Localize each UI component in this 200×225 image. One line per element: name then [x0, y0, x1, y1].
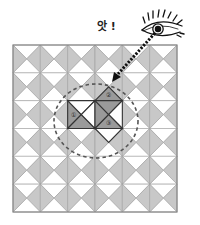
tile	[40, 129, 67, 157]
triangle-label-1: ①	[71, 111, 76, 118]
tile-illusion-figure: ①②③ 앗 !	[0, 0, 200, 225]
tile	[122, 156, 149, 184]
tile	[122, 101, 149, 129]
tile	[13, 101, 40, 129]
tile	[122, 73, 149, 101]
triangle-label-2: ②	[106, 91, 111, 98]
tile	[95, 45, 122, 73]
tile	[95, 156, 122, 184]
tile	[13, 156, 40, 184]
tile	[40, 156, 67, 184]
tile	[150, 73, 177, 101]
tile	[13, 73, 40, 101]
tile	[150, 129, 177, 157]
tile	[13, 129, 40, 157]
tile	[13, 45, 40, 73]
tile	[68, 156, 95, 184]
tile	[150, 45, 177, 73]
tile	[68, 184, 95, 212]
tile	[68, 45, 95, 73]
tile	[40, 45, 67, 73]
triangle-label-3: ③	[106, 119, 111, 126]
tile	[150, 101, 177, 129]
tile	[122, 184, 149, 212]
exclamation-text: 앗 !	[97, 19, 116, 33]
tile	[150, 156, 177, 184]
tile	[122, 129, 149, 157]
tile	[122, 45, 149, 73]
tile	[150, 184, 177, 212]
eye-icon	[142, 10, 184, 37]
tile	[13, 184, 40, 212]
tile	[40, 184, 67, 212]
tile	[95, 184, 122, 212]
